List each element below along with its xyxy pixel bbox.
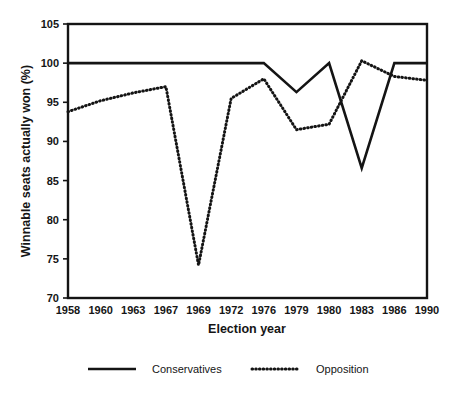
y-tick-label-105: 105 — [41, 18, 59, 30]
x-tick-label-1963: 1963 — [121, 304, 145, 316]
y-tick-label-95: 95 — [47, 96, 59, 108]
x-tick-label-1979: 1979 — [284, 304, 308, 316]
line-chart: 707580859095100105 195819601963196719691… — [0, 0, 456, 393]
y-tick-label-85: 85 — [47, 175, 59, 187]
x-tick-label-1960: 1960 — [88, 304, 112, 316]
y-tick-label-90: 90 — [47, 135, 59, 147]
series-line-conservatives — [68, 63, 427, 168]
plot-area-frame — [68, 24, 427, 298]
legend-label-opposition: Opposition — [316, 363, 369, 375]
y-tick-label-70: 70 — [47, 292, 59, 304]
x-tick-label-1983: 1983 — [349, 304, 373, 316]
y-axis-title: Winnable seats actually won (%) — [19, 65, 33, 257]
series-line-opposition — [68, 61, 427, 265]
x-tick-label-1976: 1976 — [252, 304, 276, 316]
x-tick-label-1990: 1990 — [415, 304, 439, 316]
y-tick-label-75: 75 — [47, 253, 59, 265]
y-tick-label-100: 100 — [41, 57, 59, 69]
x-tick-label-1986: 1986 — [382, 304, 406, 316]
x-tick-label-1972: 1972 — [219, 304, 243, 316]
x-tick-label-1967: 1967 — [154, 304, 178, 316]
y-axis-tick-labels: 707580859095100105 — [41, 18, 59, 304]
x-tick-label-1958: 1958 — [56, 304, 80, 316]
chart-legend: Conservatives Opposition — [88, 363, 369, 375]
x-tick-label-1980: 1980 — [317, 304, 341, 316]
data-series-group — [68, 61, 427, 265]
x-axis-title: Election year — [208, 322, 286, 336]
legend-label-conservatives: Conservatives — [152, 363, 222, 375]
y-tick-label-80: 80 — [47, 214, 59, 226]
chart-figure: 707580859095100105 195819601963196719691… — [0, 0, 456, 393]
x-tick-label-1969: 1969 — [186, 304, 210, 316]
x-axis-tick-labels: 1958196019631967196919721976197919801983… — [56, 304, 439, 316]
